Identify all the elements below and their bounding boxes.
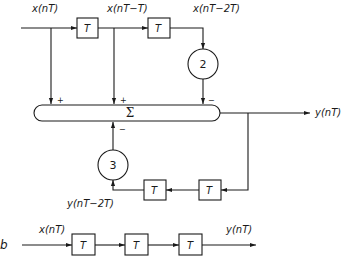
- feedback-line: [221, 113, 248, 190]
- delay-label-fb-1: T: [206, 185, 213, 196]
- label-y-nT-2T: y(nT−2T): [66, 198, 114, 209]
- diagram-a: x(nT) T x(nT−T) T x(nT−2T) 2 − + + Σ y(n…: [21, 3, 341, 209]
- label-b-x-nT: x(nT): [38, 224, 65, 235]
- multiplier-3-value: 3: [110, 159, 117, 172]
- filter-diagram: x(nT) T x(nT−T) T x(nT−2T) 2 − + + Σ y(n…: [0, 0, 347, 266]
- label-x-nT: x(nT): [31, 3, 58, 14]
- part-label-b: b: [0, 238, 8, 252]
- sign-4: −: [119, 125, 126, 134]
- label-x-nT-2T: x(nT−2T): [192, 3, 240, 14]
- delay-label-1: T: [84, 23, 91, 34]
- label-x-nT-T: x(nT−T): [106, 3, 148, 14]
- label-b-y-nT: y(nT): [225, 224, 252, 235]
- delay-label-2: T: [155, 23, 162, 34]
- line-x-nT-2T: [170, 28, 203, 49]
- b-delay-label-2: T: [133, 240, 140, 251]
- line-y-nT-2T: [113, 180, 144, 190]
- sign-3: −: [208, 96, 215, 105]
- multiplier-2-value: 2: [200, 58, 207, 71]
- b-delay-label-1: T: [80, 240, 87, 251]
- sign-2: +: [120, 96, 127, 105]
- label-y-nT: y(nT): [314, 107, 341, 118]
- diagram-b: b x(nT) T T T y(nT): [0, 224, 256, 255]
- summer-symbol: Σ: [126, 106, 134, 120]
- b-delay-label-3: T: [187, 240, 194, 251]
- sign-1: +: [57, 96, 64, 105]
- delay-label-fb-2: T: [151, 185, 158, 196]
